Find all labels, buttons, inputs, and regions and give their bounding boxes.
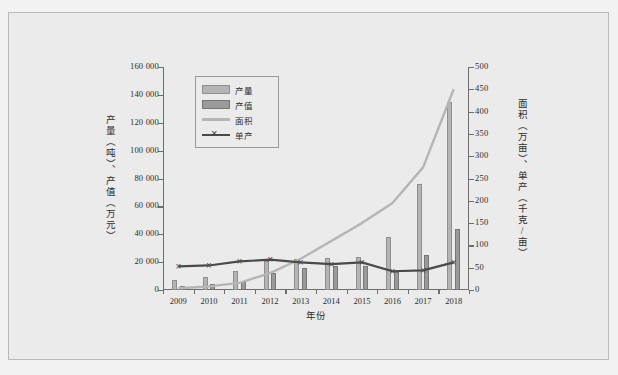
marker-cross-icon: ×	[298, 257, 304, 268]
legend-label: 面积	[235, 114, 253, 126]
legend-label: 单产	[235, 129, 253, 141]
y-axis-left-tick-label: 100 000	[130, 145, 159, 155]
legend-swatch-line-icon	[202, 115, 230, 124]
x-axis-tick	[347, 290, 348, 294]
marker-cross-icon: ×	[206, 260, 212, 271]
x-axis-title: 年份	[163, 308, 469, 322]
marker-cross-icon: ×	[390, 266, 396, 277]
legend-swatch-bar-icon	[202, 100, 230, 109]
x-axis-tick	[224, 290, 225, 294]
y-axis-left-title: 产量（吨）、产值（万元）	[103, 67, 117, 290]
y-axis-left-tick-label: 60 000	[134, 200, 159, 210]
marker-cross-icon: ×	[237, 256, 243, 267]
y-axis-right-tick-label: 100	[475, 239, 488, 249]
x-axis-tick	[316, 290, 317, 294]
y-axis-right-tick-label: 400	[475, 106, 488, 116]
legend-swatch-bar-icon	[202, 85, 230, 94]
x-axis-tick	[285, 290, 286, 294]
marker-cross-icon: ×	[359, 257, 365, 268]
y-axis-left-tick-label: 80 000	[134, 173, 159, 183]
y-axis-right-tick	[469, 268, 474, 269]
y-axis-right-tick-label: 200	[475, 195, 488, 205]
y-axis-right-tick-label: 150	[475, 217, 488, 227]
y-axis-right-tick-label: 500	[475, 61, 488, 71]
line-danchan	[178, 260, 453, 272]
y-axis-left-tick-label: 120 000	[130, 117, 159, 127]
y-axis-right-tick	[469, 67, 474, 68]
y-axis-right-tick-label: 250	[475, 173, 488, 183]
y-axis-right-tick	[469, 201, 474, 202]
y-axis-left-tick-label: 140 000	[130, 89, 159, 99]
x-axis-tick-label: 2018	[445, 296, 462, 306]
y-axis-left-tick-label: 0	[155, 284, 159, 294]
x-axis-tick	[469, 290, 470, 294]
x-axis-tick	[408, 290, 409, 294]
legend-label: 产量	[235, 84, 253, 96]
y-axis-right-tick-label: 0	[475, 284, 479, 294]
legend-item-danchan: 单产	[202, 127, 272, 142]
y-axis-right-title-text: 面积（万亩）、单产（千克/亩）	[515, 99, 529, 259]
marker-cross-icon: ×	[420, 265, 426, 276]
x-axis-tick-label: 2017	[415, 296, 432, 306]
legend-item-chanzhi: 产值	[202, 97, 272, 112]
y-axis-right-tick	[469, 134, 474, 135]
y-axis-right-tick	[469, 156, 474, 157]
y-axis-left-tick-label: 160 000	[130, 61, 159, 71]
x-axis-tick-label: 2009	[170, 296, 187, 306]
y-axis-right-tick-label: 300	[475, 150, 488, 160]
x-axis-tick-label: 2010	[200, 296, 217, 306]
y-axis-right-tick	[469, 179, 474, 180]
marker-cross-icon: ×	[267, 254, 273, 265]
chart-figure: 产量（吨）、产值（万元） 面积（万亩）、单产（千克/亩） 年份 ××××××××…	[8, 12, 609, 360]
x-axis-tick	[377, 290, 378, 294]
y-axis-right-title: 面积（万亩）、单产（千克/亩）	[515, 67, 529, 290]
x-axis-tick-label: 2014	[323, 296, 340, 306]
y-axis-left-tick-label: 20 000	[134, 256, 159, 266]
x-axis-tick-label: 2015	[353, 296, 370, 306]
legend-label: 产值	[235, 99, 253, 111]
legend-item-chanliang: 产量	[202, 82, 272, 97]
y-axis-left-tick-label: 40 000	[134, 228, 159, 238]
x-axis-tick-label: 2011	[231, 296, 248, 306]
y-axis-left-title-text: 产量（吨）、产值（万元）	[103, 115, 117, 242]
legend-item-mianji: 面积	[202, 112, 272, 127]
y-axis-right-tick	[469, 245, 474, 246]
x-axis-tick	[194, 290, 195, 294]
x-axis-tick-label: 2012	[262, 296, 279, 306]
x-axis-tick-label: 2016	[384, 296, 401, 306]
y-axis-right-tick-label: 450	[475, 83, 488, 93]
marker-cross-icon: ×	[328, 259, 334, 270]
y-axis-right-tick	[469, 89, 474, 90]
plot-area: ×××××××××× 020 00040 00060 00080 000100 …	[163, 67, 469, 290]
x-axis-tick	[255, 290, 256, 294]
y-axis-right-tick-label: 50	[475, 262, 484, 272]
chart-legend: 产量 产值 面积 单产	[195, 76, 279, 148]
y-axis-right-tick-label: 350	[475, 128, 488, 138]
x-axis-tick	[438, 290, 439, 294]
legend-swatch-line-marker-icon	[202, 130, 230, 139]
y-axis-right-tick	[469, 223, 474, 224]
y-axis-right-tick	[469, 112, 474, 113]
x-axis-tick	[163, 290, 164, 294]
marker-cross-icon: ×	[175, 261, 181, 272]
x-axis-tick-label: 2013	[292, 296, 309, 306]
marker-cross-icon: ×	[451, 257, 457, 268]
